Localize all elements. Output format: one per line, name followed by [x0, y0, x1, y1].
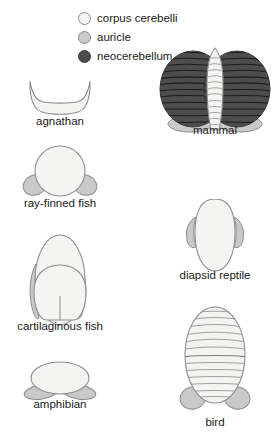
legend-label-corpus-cerebelli: corpus cerebelli	[97, 13, 178, 25]
agnathan-corpus-cerebelli	[30, 81, 90, 114]
caption-cartilaginous-fish: cartilaginous fish	[8, 320, 112, 332]
panel-ray-finned-fish: ray-finned fish	[8, 143, 112, 213]
panel-amphibian: amphibian	[8, 358, 112, 418]
caption-amphibian: amphibian	[8, 398, 112, 410]
bird-diagram	[163, 303, 267, 431]
panel-mammal: mammal	[159, 44, 271, 142]
caption-mammal: mammal	[159, 124, 271, 136]
caption-diapsid-reptile: diapsid reptile	[163, 269, 267, 281]
caption-bird: bird	[163, 416, 267, 428]
legend-swatch-neocerebellum	[78, 50, 91, 63]
panel-bird: bird	[163, 303, 267, 431]
legend-item-corpus-cerebelli: corpus cerebelli	[78, 9, 208, 28]
figure-canvas: corpus cerebelli auricle neocerebellum a…	[0, 0, 277, 435]
legend-swatch-corpus-cerebelli	[78, 12, 91, 25]
ray-finned-fish-corpus-cerebelli	[35, 146, 85, 196]
caption-ray-finned-fish: ray-finned fish	[8, 197, 112, 209]
diapsid-reptile-corpus-cerebelli	[195, 199, 235, 271]
legend-swatch-auricle	[78, 31, 91, 44]
amphibian-corpus-cerebelli	[31, 362, 89, 394]
panel-cartilaginous-fish: cartilaginous fish	[8, 232, 112, 336]
caption-agnathan: agnathan	[8, 115, 112, 127]
legend-label-auricle: auricle	[97, 32, 131, 44]
panel-diapsid-reptile: diapsid reptile	[163, 199, 267, 285]
panel-agnathan: agnathan	[8, 78, 112, 130]
